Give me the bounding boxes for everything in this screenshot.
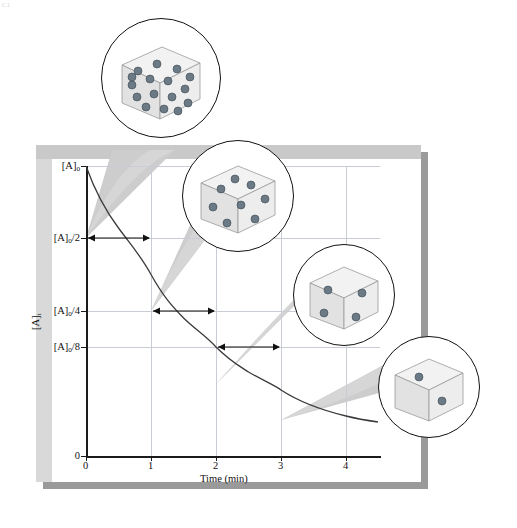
ytick-label-A0-2: [A]0/2 [16, 232, 80, 243]
callout-t3 [378, 336, 480, 438]
ytick-label-A0-8: [A]0/8 [16, 341, 80, 352]
callout-t1-box [183, 141, 293, 251]
callout-t0-box [102, 19, 220, 137]
callout-t1 [182, 140, 294, 252]
figure-canvas: C1 [0, 0, 517, 528]
xtick-label-3: 3 [278, 460, 283, 471]
xtick-label-4: 4 [343, 460, 348, 471]
ytick-label-0: 0 [50, 450, 80, 461]
xtick-label-2: 2 [213, 460, 218, 471]
ytick-label-A0: [A]0 [22, 160, 80, 171]
xtick-label-1: 1 [148, 460, 153, 471]
y-axis-title: [A]t [30, 313, 41, 330]
callout-t2 [293, 244, 395, 346]
callout-t2-box [294, 245, 394, 345]
xtick-label-0: 0 [83, 460, 88, 471]
x-axis-title: Time (min) [200, 473, 248, 484]
callout-t3-box [379, 337, 479, 437]
ytick-label-A0-4: [A]0/4 [16, 305, 80, 316]
callout-t0 [101, 18, 221, 138]
